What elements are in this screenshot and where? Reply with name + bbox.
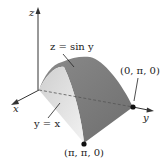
z-axis	[36, 7, 41, 90]
point-label-pi-pi-0: (π, π, 0)	[64, 148, 104, 158]
z-axis-label: z	[29, 8, 34, 18]
surface-label: z = sin y	[50, 42, 94, 52]
point-pi-pi-0	[81, 141, 86, 146]
point-label-0-pi-0: (0, π, 0)	[120, 66, 160, 76]
x-axis-label: x	[13, 104, 19, 114]
y-axis-label: y	[143, 113, 149, 123]
plane-label: y = x	[34, 119, 60, 129]
surface-diagram	[0, 0, 168, 163]
point-0-pi-0	[130, 104, 135, 109]
